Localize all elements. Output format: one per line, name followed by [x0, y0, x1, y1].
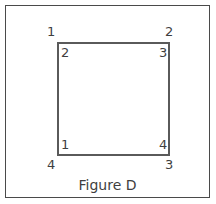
figure-panel: 1 2 4 3 2 3 1 4 Figure D	[0, 0, 216, 204]
outer-corner-label-bottom-left: 4	[47, 158, 55, 171]
figure-outer-frame: 1 2 4 3 2 3 1 4 Figure D	[5, 5, 210, 198]
square-shape	[57, 42, 170, 156]
outer-corner-label-top-right: 2	[165, 25, 173, 38]
inner-corner-label-top-left: 2	[61, 46, 69, 59]
figure-caption: Figure D	[6, 177, 209, 194]
inner-corner-label-bottom-right: 4	[159, 138, 167, 151]
inner-corner-label-top-right: 3	[159, 46, 167, 59]
outer-corner-label-bottom-right: 3	[165, 158, 173, 171]
inner-corner-label-bottom-left: 1	[61, 138, 69, 151]
outer-corner-label-top-left: 1	[47, 25, 55, 38]
